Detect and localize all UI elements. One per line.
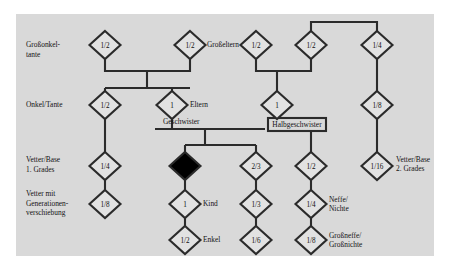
node-value: 1/2	[306, 163, 316, 171]
node-value: 1/8	[372, 102, 382, 110]
n-kind[interactable]: 1	[170, 190, 201, 218]
row-label-vetter_gen: verschiebung	[26, 208, 66, 217]
n-enkel[interactable]: 1/2	[170, 226, 201, 254]
n-eltern[interactable]: 1	[157, 91, 188, 119]
row-label-vetter1: 1. Grades	[26, 165, 54, 174]
lbl-grosseltern: Großeltern	[207, 40, 239, 49]
node-value: 1/16	[371, 163, 384, 171]
n-grosseltern-right[interactable]: 1/2	[241, 31, 272, 59]
n-halbgeschw-23[interactable]: 2/3	[241, 152, 272, 180]
node-value: 1/2	[100, 102, 110, 110]
n-halbenkel-16[interactable]: 1/6	[241, 226, 272, 254]
n-vetter-18[interactable]: 1/8	[90, 190, 121, 218]
lbl-grossneffe-2: Großnichte	[329, 240, 363, 249]
connector-topbar-right	[311, 22, 377, 31]
lbl-neffe-1: Neffe/	[329, 195, 349, 204]
n-vetter-14[interactable]: 1/4	[90, 152, 121, 180]
kinship-nodes: 1/21/21/21/21/41/2111/81/42/31/21/161/81…	[90, 31, 393, 254]
n-grosseltern-left[interactable]: 1/2	[175, 31, 206, 59]
row-label-grossonkel: tante	[26, 50, 41, 59]
node-value: 1/2	[180, 237, 190, 245]
node-value: 1/2	[251, 42, 261, 50]
ego-diamond[interactable]	[170, 152, 201, 180]
n-onkel[interactable]: 1/2	[90, 91, 121, 119]
n-cousin-right-18[interactable]: 1/8	[362, 91, 393, 119]
row-label-vetter_gen: Vetter mit	[26, 189, 56, 198]
node-value: 1	[275, 102, 279, 110]
row-label-grossonkel: Großonkel-	[26, 40, 61, 49]
n-stiefgrosseltern[interactable]: 1/2	[296, 31, 327, 59]
row-label-vetter1: Vetter/Base	[26, 155, 61, 164]
lbl-vetter2-1: Vetter/Base	[396, 155, 431, 164]
node-value: 1/2	[100, 42, 110, 50]
node-value: 1/6	[251, 237, 261, 245]
n-grossonkel-right[interactable]: 1/4	[362, 31, 393, 59]
n-stiefelternteil[interactable]: 1	[262, 91, 293, 119]
node-value: 1/4	[306, 201, 316, 209]
node-value: 1/4	[372, 42, 382, 50]
n-geschwister-12[interactable]: 1/2	[296, 152, 327, 180]
n-neffe[interactable]: 1/4	[296, 190, 327, 218]
row-label-onkel: Onkel/Tante	[26, 100, 63, 109]
kinship-diagram-svg: 1/21/21/21/21/41/2111/81/42/31/21/161/81…	[0, 0, 449, 273]
node-value: 2/3	[251, 163, 261, 171]
n-vetter2-116[interactable]: 1/16	[362, 152, 393, 180]
lbl-halbgeschwister: Halbgeschwister	[272, 120, 322, 129]
node-value: 1/8	[100, 201, 110, 209]
node-value: 1	[170, 102, 174, 110]
node-value: 1/4	[100, 163, 110, 171]
lbl-eltern: Eltern	[190, 100, 208, 109]
connector-grandparents-left	[105, 59, 190, 71]
node-value: 1/8	[306, 237, 316, 245]
diagram-canvas: 1/21/21/21/21/41/2111/81/42/31/21/161/81…	[0, 0, 449, 273]
lbl-geschwister: Geschwister	[163, 117, 200, 126]
lbl-neffe-2: Nichte	[329, 204, 349, 213]
lbl-kind: Kind	[203, 199, 218, 208]
node-value: 1	[183, 201, 187, 209]
n-grossonkel[interactable]: 1/2	[90, 31, 121, 59]
node-value: 1/2	[306, 42, 316, 50]
node-value: 1/3	[251, 201, 261, 209]
lbl-vetter2-2: 2. Grades	[396, 164, 424, 173]
row-label-vetter_gen: Generationen-	[26, 199, 69, 208]
row-labels: Großonkel-tanteOnkel/TanteVetter/Base1. …	[26, 40, 69, 217]
lbl-enkel: Enkel	[203, 235, 220, 244]
n-ego[interactable]	[170, 152, 201, 180]
connector-grandparents-right	[256, 59, 311, 71]
lbl-grossneffe-1: Großneffe/	[329, 231, 362, 240]
n-halbkind-13[interactable]: 1/3	[241, 190, 272, 218]
node-value: 1/2	[185, 42, 195, 50]
n-grossneffe[interactable]: 1/8	[296, 226, 327, 254]
